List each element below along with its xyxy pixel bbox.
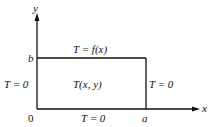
plate-diagram: y x b 0 a T = f(x) T = 0 T = 0 T = 0 T(x… — [0, 0, 210, 127]
interior-label: T(x, y) — [73, 78, 102, 91]
x-axis-label: x — [201, 102, 207, 114]
right-boundary-label: T = 0 — [149, 78, 174, 90]
a-label: a — [142, 112, 148, 124]
y-axis-arrowhead — [35, 13, 40, 21]
bottom-boundary-label: T = 0 — [81, 112, 106, 124]
b-label: b — [28, 52, 34, 64]
x-axis-arrowhead — [192, 107, 200, 112]
top-boundary-label: T = f(x) — [73, 43, 107, 56]
left-boundary-label: T = 0 — [4, 78, 29, 90]
y-axis-label: y — [32, 2, 38, 14]
origin-label: 0 — [28, 112, 34, 124]
